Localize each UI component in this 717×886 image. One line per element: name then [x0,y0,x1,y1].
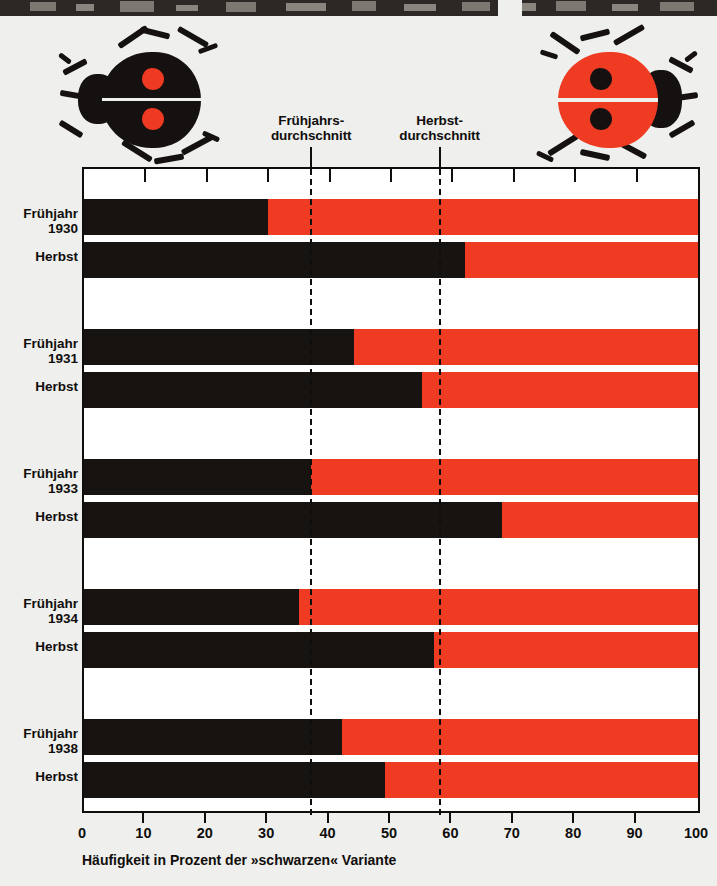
season-label: Frühjahr [0,596,78,611]
season-label: Herbst [0,509,78,524]
red-variant-ladybird-icon [528,30,700,170]
x-tick-label: 40 [320,825,336,841]
table-row [84,719,698,755]
ladybird-spot [142,108,164,130]
chart-figure: Frühjahrs- durchschnitt Herbst- durchsch… [0,16,717,886]
autumn-average-label-line1: Herbst- [372,113,507,128]
season-label: Frühjahr [0,726,78,741]
year-label: 1930 [0,221,78,236]
x-tick-label: 60 [442,825,458,841]
x-tick-label: 20 [197,825,213,841]
x-tick-mark [388,813,390,823]
table-row [84,329,698,365]
autumn-average-label-line2: durchschnitt [372,128,507,143]
table-row [84,459,698,495]
autumn-average-label: Herbst- durchschnitt [372,113,507,143]
spring-average-label-line2: durchschnitt [241,128,381,143]
x-tick-mark [511,813,513,823]
table-row [84,589,698,625]
table-row [84,632,698,668]
bars-layer [84,169,698,811]
table-row [84,762,698,798]
table-row [84,242,698,278]
year-label: 1931 [0,351,78,366]
table-row [84,199,698,235]
ladybird-spot [142,68,164,90]
black-segment [84,632,434,668]
x-tick-label: 50 [381,825,397,841]
spring-average-line [310,169,312,815]
ladybird-spot [590,108,612,130]
x-tick-label: 0 [78,825,86,841]
x-tick-mark [265,813,267,823]
black-segment [84,199,268,235]
table-row [84,502,698,538]
spring-average-label-line1: Frühjahrs- [241,113,381,128]
ladybird-spot [590,68,612,90]
season-label: Herbst [0,249,78,264]
x-tick-label: 80 [565,825,581,841]
black-segment [84,459,311,495]
x-tick-label: 100 [684,825,708,841]
photo-strip [0,0,717,16]
x-tick-mark [327,813,329,823]
x-tick-mark [142,813,144,823]
spring-average-stem [310,147,312,167]
x-axis-title: Häufigkeit in Prozent der »schwarzen« Va… [82,852,396,868]
black-segment [84,719,342,755]
plot-area [82,167,700,813]
autumn-average-line [439,169,441,815]
x-tick-label: 30 [258,825,274,841]
season-label: Frühjahr [0,466,78,481]
black-segment [84,242,465,278]
black-segment [84,762,385,798]
season-label: Frühjahr [0,206,78,221]
season-label: Herbst [0,769,78,784]
season-label: Herbst [0,639,78,654]
x-tick-mark [204,813,206,823]
black-segment [84,329,354,365]
x-tick-label: 70 [504,825,520,841]
x-tick-mark [449,813,451,823]
x-axis: 0102030405060708090100 [82,813,700,814]
x-tick-label: 10 [135,825,151,841]
year-label: 1938 [0,741,78,756]
year-label: 1933 [0,481,78,496]
black-segment [84,589,299,625]
x-tick-label: 90 [627,825,643,841]
year-label: 1934 [0,611,78,626]
table-row [84,372,698,408]
black-segment [84,372,422,408]
x-tick-mark [634,813,636,823]
black-variant-ladybird-icon [58,30,230,170]
row-labels: FrühjahrHerbst1930FrühjahrHerbst1931Früh… [0,167,78,813]
autumn-average-stem [439,147,441,167]
season-label: Herbst [0,379,78,394]
season-label: Frühjahr [0,336,78,351]
x-tick-mark [572,813,574,823]
spring-average-label: Frühjahrs- durchschnitt [241,113,381,143]
